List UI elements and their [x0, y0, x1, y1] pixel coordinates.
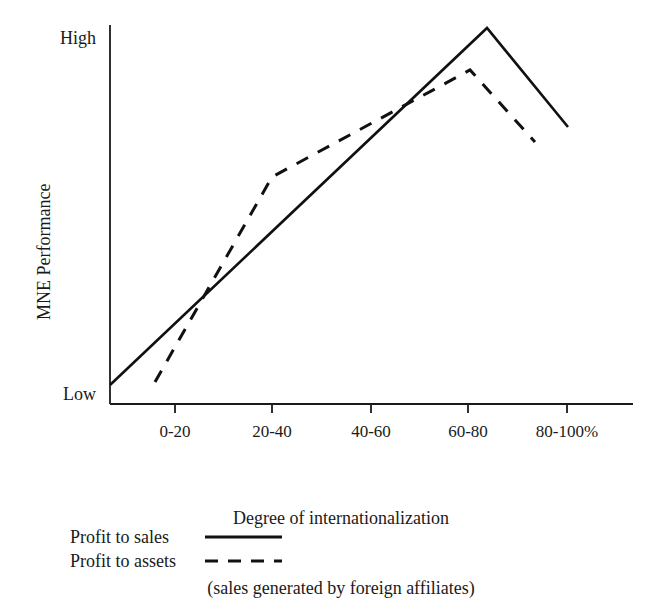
x-axis-tick-label-3: 60-80 [448, 422, 488, 442]
series-line-profit-to-sales [110, 28, 568, 385]
x-axis-title-line1: Degree of internationalization [207, 507, 475, 530]
series-line-profit-to-assets [155, 70, 535, 382]
x-axis-tick-label-4: 80-100% [536, 422, 598, 442]
y-axis-low-label: Low [40, 384, 96, 405]
series-group [110, 28, 568, 385]
x-axis-tick-label-0: 0-20 [159, 422, 190, 442]
x-axis-tick-label-2: 40-60 [351, 422, 391, 442]
x-axis-ticks [175, 404, 567, 413]
legend-item-profit-to-assets: Profit to assets [70, 551, 176, 572]
axes-group [110, 25, 633, 413]
x-axis-tick-label-1: 20-40 [252, 422, 292, 442]
x-axis-title-line2: (sales generated by foreign affiliates) [207, 577, 475, 600]
x-axis-title: Degree of internationalization (sales ge… [207, 460, 475, 602]
y-axis-title: MNE Performance [34, 184, 55, 320]
legend-item-profit-to-sales: Profit to sales [70, 527, 169, 548]
y-axis-high-label: High [40, 28, 96, 49]
